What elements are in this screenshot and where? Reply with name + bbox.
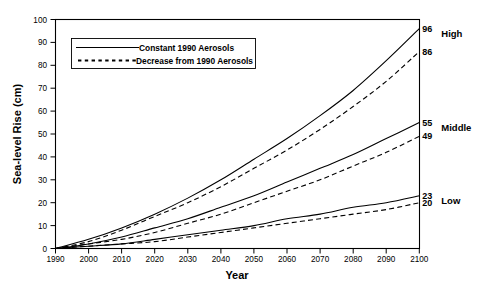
- y-axis-title: Sea-level Rise (cm): [11, 84, 23, 185]
- y-tick-label: 0: [42, 245, 47, 254]
- endpoint-value-label: 49: [422, 131, 432, 141]
- legend-label-decrease: Decrease from 1990 Aerosols: [136, 56, 253, 66]
- x-tick-label: 1990: [46, 255, 65, 264]
- sea-level-rise-chart: 0 10 20 30 40 50 60 70 80 90 100: [0, 0, 483, 287]
- series-line: [56, 123, 420, 249]
- y-tick-label: 60: [38, 107, 48, 116]
- y-tick-label: 40: [38, 153, 48, 162]
- series-line: [56, 203, 420, 249]
- y-axis-ticks: [51, 20, 56, 249]
- scenario-label-middle: Middle: [441, 122, 471, 133]
- x-axis-tick-labels: 1990 2000 2010 2020 2030 2040 2050 2060 …: [46, 255, 428, 264]
- endpoint-value-label: 20: [422, 198, 432, 208]
- legend-label-constant: Constant 1990 Aerosols: [139, 43, 234, 53]
- chart-canvas: 0 10 20 30 40 50 60 70 80 90 100: [0, 0, 483, 287]
- scenario-label-high: High: [441, 28, 462, 39]
- y-tick-label: 30: [38, 176, 48, 185]
- y-tick-label: 50: [38, 130, 48, 139]
- endpoint-value-label: 55: [422, 118, 432, 128]
- x-tick-label: 2040: [212, 255, 231, 264]
- y-tick-label: 20: [38, 199, 48, 208]
- x-tick-label: 2080: [344, 255, 363, 264]
- x-tick-label: 2010: [112, 255, 131, 264]
- y-tick-label: 100: [33, 16, 47, 25]
- scenario-label-low: Low: [441, 195, 461, 206]
- x-tick-label: 2060: [278, 255, 297, 264]
- endpoint-value-label: 86: [422, 47, 432, 57]
- series-line: [56, 196, 420, 249]
- y-tick-label: 90: [38, 38, 48, 47]
- x-axis-title: Year: [225, 269, 249, 281]
- x-tick-label: 2100: [410, 255, 429, 264]
- legend: Constant 1990 Aerosols Decrease from 199…: [72, 39, 256, 69]
- x-tick-label: 2020: [146, 255, 165, 264]
- endpoint-annotations: 968655492320HighMiddleLow: [422, 24, 471, 208]
- y-tick-label: 80: [38, 61, 48, 70]
- y-tick-label: 70: [38, 84, 48, 93]
- x-tick-label: 2030: [179, 255, 198, 264]
- y-axis-tick-labels: 0 10 20 30 40 50 60 70 80 90 100: [33, 16, 47, 254]
- y-tick-label: 10: [38, 222, 48, 231]
- endpoint-value-label: 96: [422, 24, 432, 34]
- x-tick-label: 2000: [79, 255, 98, 264]
- x-tick-label: 2090: [377, 255, 396, 264]
- x-tick-label: 2070: [311, 255, 330, 264]
- x-tick-label: 2050: [245, 255, 264, 264]
- x-axis-ticks: [56, 249, 420, 254]
